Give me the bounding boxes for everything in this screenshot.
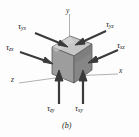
tau-xz-subscript: xz	[120, 44, 124, 50]
tau-zx-subscript: zx	[9, 46, 13, 52]
tau-yz-subscript: yz	[109, 23, 113, 29]
tau-zy-subscript: zy	[50, 107, 54, 113]
tau-xz-arrow	[88, 50, 118, 63]
tau-zx-arrow	[20, 52, 53, 64]
tau-xy-subscript: xy	[78, 107, 83, 113]
tau-yz-label: τyz	[106, 20, 114, 30]
figure-caption: (b)	[62, 122, 71, 130]
tau-zx-label: τzx	[6, 43, 14, 53]
tau-zy-label: τzy	[47, 104, 55, 114]
tau-yz-arrow	[75, 31, 106, 45]
x-axis-label: x	[119, 67, 122, 75]
tau-xz-label: τxz	[117, 41, 125, 51]
tau-xy-label: τxy	[75, 104, 83, 114]
stress-element-figure: τyx τyz τzx τxz τzy τxy y x z (b)	[0, 0, 139, 137]
z-axis-label: z	[11, 76, 14, 84]
tau-yx-subscript: yx	[21, 25, 26, 31]
tau-yx-label: τyx	[18, 22, 26, 32]
y-axis-label: y	[66, 7, 69, 15]
